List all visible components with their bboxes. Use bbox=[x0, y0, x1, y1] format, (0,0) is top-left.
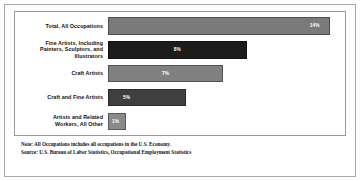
bar-rows: Total, All Occupations 14% Fine Artists,… bbox=[15, 12, 345, 135]
category-label: Craft and Fine Artists bbox=[15, 94, 108, 101]
bar-track: 14% bbox=[108, 14, 345, 38]
category-label: Artists and Related Workers, All Other bbox=[15, 114, 108, 127]
footnote-note: Note: All Occupations includes all occup… bbox=[21, 141, 331, 149]
bar: 5% bbox=[108, 89, 186, 106]
bar: 1% bbox=[108, 113, 126, 130]
category-label-line: Workers, All Other bbox=[55, 121, 103, 127]
bar-track: 7% bbox=[108, 62, 345, 86]
footnote-block: Note: All Occupations includes all occup… bbox=[21, 141, 331, 156]
bar-value-label: 8% bbox=[174, 47, 181, 52]
bar-value-label: 7% bbox=[162, 71, 169, 76]
bar-track: 8% bbox=[108, 38, 345, 62]
category-label-line: Illustrators bbox=[75, 53, 103, 59]
chart-row: Total, All Occupations 14% bbox=[15, 14, 345, 38]
bar-value-label: 14% bbox=[310, 23, 320, 28]
chart-row: Craft and Fine Artists 5% bbox=[15, 85, 345, 109]
chart-row: Artists and Related Workers, All Other 1… bbox=[15, 109, 345, 133]
category-label-line: Painters, Sculptors, and bbox=[40, 46, 103, 52]
bar: 8% bbox=[108, 41, 247, 59]
chart-row: Fine Artists, Including Painters, Sculpt… bbox=[15, 38, 345, 62]
chart-row: Craft Artists 7% bbox=[15, 62, 345, 86]
bar-chart-figure: Total, All Occupations 14% Fine Artists,… bbox=[0, 0, 360, 181]
category-label: Total, All Occupations bbox=[15, 23, 108, 30]
bar-track: 1% bbox=[108, 109, 345, 133]
category-label-line: Craft Artists bbox=[71, 70, 103, 76]
category-label-line: Artists and Related bbox=[53, 114, 103, 120]
footnote-source: Source: U.S. Bureau of Labor Statistics,… bbox=[21, 149, 331, 157]
bar: 14% bbox=[108, 17, 330, 35]
bar-track: 5% bbox=[108, 85, 345, 109]
category-label-line: Craft and Fine Artists bbox=[47, 94, 103, 100]
bar: 7% bbox=[108, 65, 223, 82]
bar-value-label: 1% bbox=[112, 119, 119, 124]
category-label: Craft Artists bbox=[15, 70, 108, 77]
category-label: Fine Artists, Including Painters, Sculpt… bbox=[15, 40, 108, 60]
category-label-line: Total, All Occupations bbox=[46, 23, 103, 29]
category-label-line: Fine Artists, Including bbox=[45, 40, 103, 46]
plot-area: Total, All Occupations 14% Fine Artists,… bbox=[14, 11, 346, 136]
bar-value-label: 5% bbox=[123, 95, 130, 100]
